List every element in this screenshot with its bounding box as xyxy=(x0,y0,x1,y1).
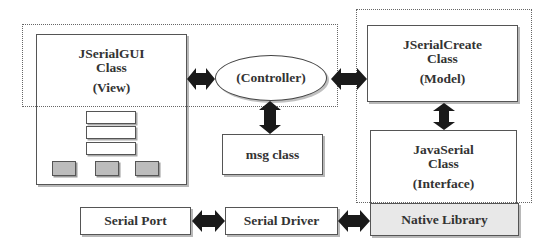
double-arrow-controller-model-icon xyxy=(331,67,367,91)
controller-ellipse: (Controller) xyxy=(215,55,327,101)
native-library-box: Native Library xyxy=(370,203,519,236)
double-arrow-driver-native-icon xyxy=(338,209,370,233)
mvc-serial-diagram: JSerialGUI Class (View) (Controller) msg… xyxy=(0,0,553,252)
gui-button-widget-2 xyxy=(95,161,119,176)
gui-textfield-widget-1 xyxy=(86,111,136,124)
controller-label: (Controller) xyxy=(216,71,326,85)
double-arrow-gui-controller-icon xyxy=(187,67,215,91)
gui-textfield-widget-2 xyxy=(86,126,136,139)
serial-port-label: Serial Port xyxy=(81,214,190,228)
serial-driver-box: Serial Driver xyxy=(225,207,338,235)
native-library-label: Native Library xyxy=(371,213,518,227)
msg-class-box: msg class xyxy=(222,134,323,175)
double-arrow-port-driver-icon xyxy=(192,209,225,233)
double-arrow-model-interface-icon xyxy=(432,103,456,130)
serial-port-box: Serial Port xyxy=(80,207,191,235)
gui-textfield-widget-3 xyxy=(86,142,136,155)
serial-driver-label: Serial Driver xyxy=(226,214,337,228)
double-arrow-controller-msg-icon xyxy=(258,101,282,134)
msg-class-label: msg class xyxy=(223,148,322,162)
gui-button-widget-1 xyxy=(52,161,76,176)
gui-button-widget-3 xyxy=(135,161,159,176)
